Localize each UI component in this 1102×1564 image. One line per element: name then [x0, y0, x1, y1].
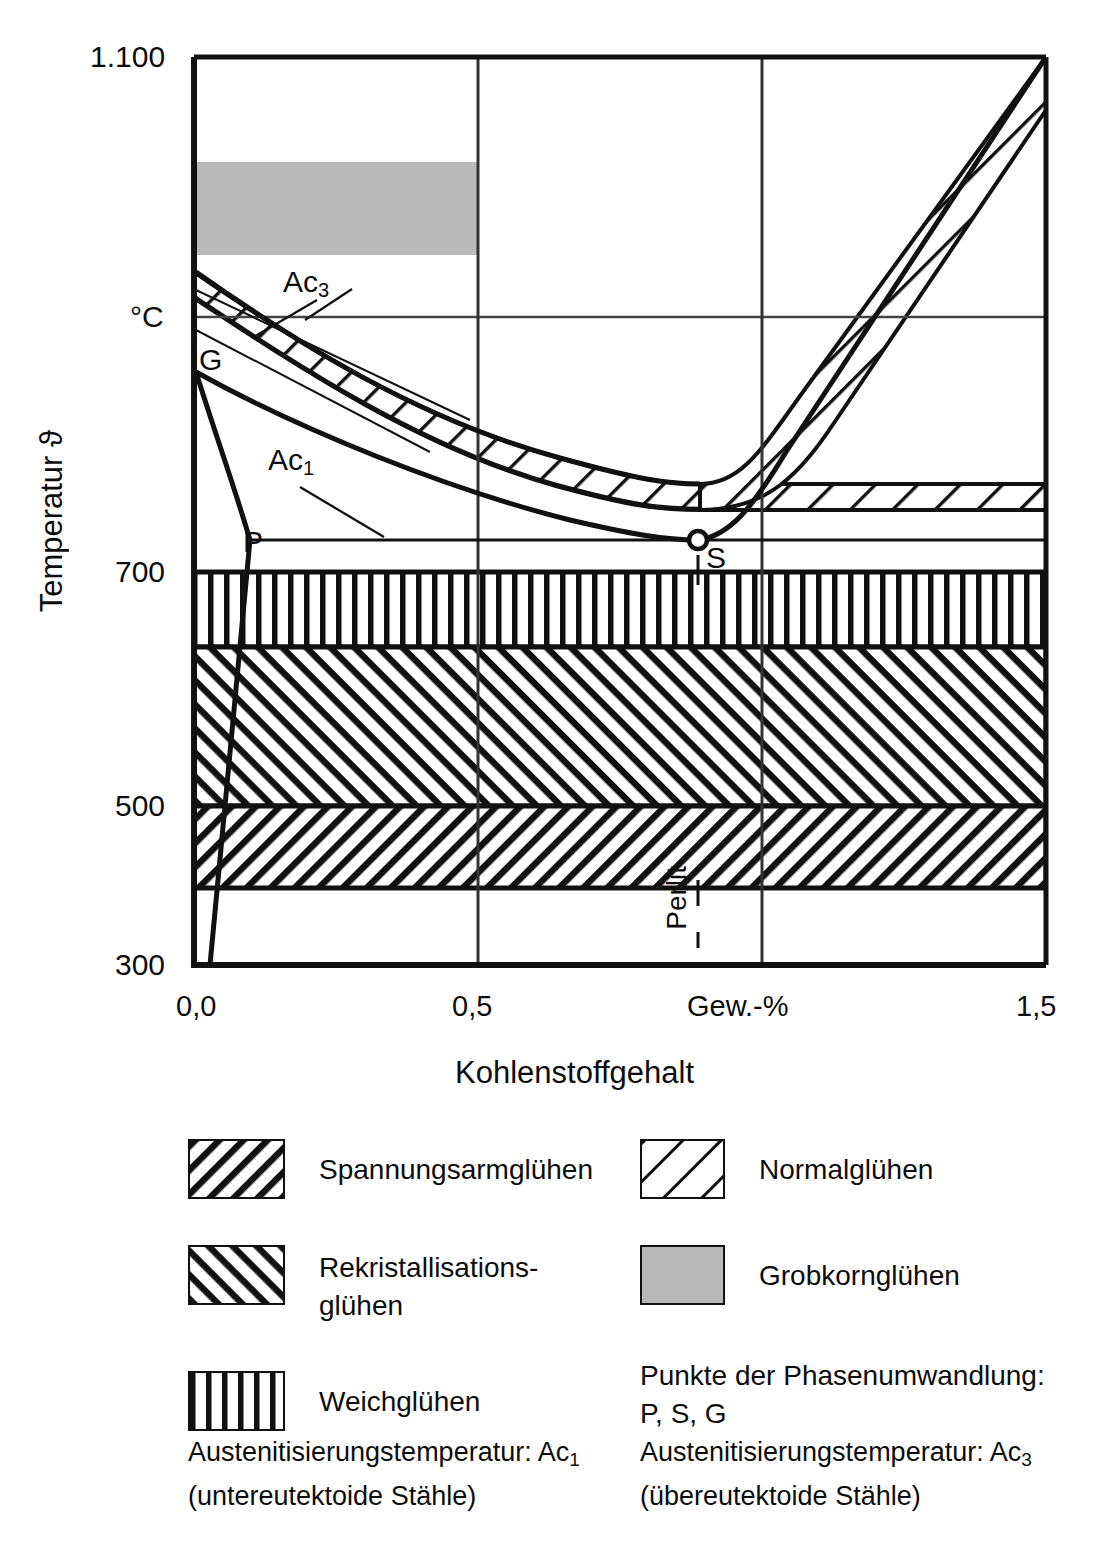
- legend-item-grobkorn: Grobkornglühen: [640, 1245, 1092, 1305]
- swatch-normal: [640, 1139, 725, 1199]
- point-s-marker: [689, 531, 707, 549]
- label-perlit: Perlit: [661, 866, 693, 930]
- x-tick-00: 0,0: [176, 990, 216, 1023]
- note-ac3-line2: (übereutektoide Stähle): [640, 1478, 1100, 1514]
- y-tick-1100: 1.100: [90, 40, 165, 74]
- swatch-spannungsarm: [188, 1139, 285, 1199]
- band-spannungsarmglühen: [194, 806, 1046, 888]
- label-point-g: G: [199, 343, 222, 377]
- phase-points-line1: Punkte der Phasenumwandlung:: [640, 1357, 1092, 1395]
- note-ac3-base: Austenitisierungstemperatur: Ac: [640, 1437, 1021, 1467]
- label-ac1-base: Ac: [268, 443, 303, 476]
- y-tick-700: 700: [115, 555, 165, 589]
- phase-diagram-chart: [0, 0, 1102, 1050]
- y-tick-unit: °C: [130, 300, 164, 334]
- note-ac3-line1: Austenitisierungstemperatur: Ac3: [640, 1434, 1100, 1478]
- legend-item-weich: Weichglühen: [188, 1371, 658, 1431]
- note-ac1-line2: (untereutektoide Stähle): [188, 1478, 608, 1514]
- swatch-weich: [188, 1371, 285, 1431]
- label-ac3-sub: 3: [318, 279, 329, 301]
- y-axis-label: Temperatur ϑ: [34, 430, 70, 612]
- swatch-rekristallisation: [188, 1245, 285, 1305]
- note-ac1-sub: 1: [569, 1449, 580, 1470]
- note-ac1: Austenitisierungstemperatur: Ac1 (untere…: [188, 1434, 608, 1514]
- note-ac1-base: Austenitisierungstemperatur: Ac: [188, 1437, 569, 1467]
- x-tick-15: 1,5: [1016, 990, 1056, 1023]
- x-tick-05: 0,5: [452, 990, 492, 1023]
- label-point-s: S: [706, 541, 726, 575]
- note-ac3-sub: 3: [1021, 1449, 1032, 1470]
- y-tick-300: 300: [115, 948, 165, 982]
- legend-label-weich: Weichglühen: [319, 1371, 480, 1421]
- legend-label-normal: Normalglühen: [759, 1139, 933, 1189]
- label-ac3: Ac3: [283, 265, 329, 302]
- label-point-p: P: [243, 525, 263, 559]
- legend-label-rekristallisation: Rekristallisations- glühen: [319, 1245, 538, 1325]
- legend-item-normal: Normalglühen: [640, 1139, 1092, 1199]
- label-ac1: Ac1: [268, 443, 314, 480]
- phase-points-line2: P, S, G: [640, 1395, 1092, 1433]
- swatch-grobkorn: [640, 1245, 725, 1305]
- x-tick-10: Gew.-%: [687, 990, 789, 1023]
- note-ac1-line1: Austenitisierungstemperatur: Ac1: [188, 1434, 608, 1478]
- band-rekristallisationsglühen: [194, 647, 1046, 806]
- band-weichglühen: [194, 572, 1046, 647]
- legend-phase-points: Punkte der Phasenumwandlung: P, S, G: [640, 1357, 1092, 1433]
- band-grobkornglühen: [194, 162, 478, 255]
- legend-item-rekristallisation: Rekristallisations- glühen: [188, 1245, 658, 1325]
- legend-label-grobkorn: Grobkornglühen: [759, 1245, 960, 1295]
- legend-label-spannungsarm: Spannungsarmglühen: [319, 1139, 593, 1189]
- note-ac3: Austenitisierungstemperatur: Ac3 (übereu…: [640, 1434, 1100, 1514]
- x-axis-label: Kohlenstoffgehalt: [455, 1055, 694, 1091]
- label-ac3-base: Ac: [283, 265, 318, 298]
- label-ac1-sub: 1: [303, 457, 314, 479]
- y-tick-500: 500: [115, 789, 165, 823]
- legend-item-spannungsarm: Spannungsarmglühen: [188, 1139, 658, 1199]
